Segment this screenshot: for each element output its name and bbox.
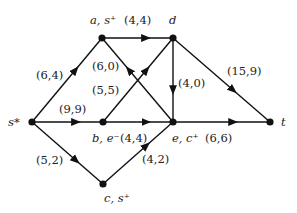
edge-label: (9,9) (59, 102, 86, 116)
node-d (169, 34, 176, 41)
node-label-a: a, s⁺ (90, 13, 116, 27)
edge-label: (4,4) (124, 13, 151, 27)
node-e (169, 118, 176, 125)
edge-label: (4,4) (120, 131, 147, 145)
node-c (99, 180, 106, 187)
edge-label: (5,2) (36, 153, 63, 167)
flow-network-diagram: (6,4)(4,4)(9,9)(4,4)(5,2)(4,2)(6,0)(5,5)… (0, 0, 297, 213)
edge-label: (15,9) (227, 64, 262, 78)
edge-label: (4,2) (142, 152, 169, 166)
node-label-c: c, s⁺ (104, 191, 130, 205)
edge-label: (6,6) (205, 131, 232, 145)
node-t (266, 118, 273, 125)
node-label-s: s* (8, 115, 20, 129)
edge-label: (5,5) (92, 83, 119, 97)
arrowhead-icon (75, 159, 77, 160)
arrowhead-icon (232, 89, 234, 90)
edge-label: (4,0) (178, 76, 205, 90)
arrowhead-icon (145, 70, 146, 72)
node-label-d: d (169, 13, 176, 27)
arrowhead-icon (145, 146, 146, 147)
node-label-t: t (281, 115, 286, 129)
node-s (28, 118, 35, 125)
node-a (98, 34, 105, 41)
node-label-e: e, c⁺ (172, 131, 199, 145)
node-labels-layer: a, s⁺ds*b, e⁻e, c⁺tc, s⁺ (8, 13, 286, 205)
node-label-b: b, e⁻ (92, 131, 120, 145)
arrowhead-icon (74, 70, 75, 72)
node-b (99, 118, 106, 125)
edge-label: (6,4) (36, 68, 63, 82)
arrowhead-icon (129, 70, 130, 72)
edge-label: (6,0) (92, 59, 119, 73)
